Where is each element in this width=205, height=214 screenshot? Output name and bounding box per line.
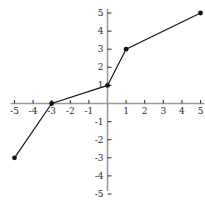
x-tick-label-5: 5 bbox=[198, 106, 204, 116]
x-tick-label-3: 3 bbox=[160, 106, 166, 116]
data-point-4 bbox=[198, 11, 203, 16]
x-tick-label-2: 2 bbox=[142, 106, 148, 116]
x-tick-label--4: -4 bbox=[29, 106, 38, 116]
y-tick-label-2: 2 bbox=[98, 62, 104, 72]
data-point-0 bbox=[12, 155, 17, 160]
y-tick-label--1: -1 bbox=[95, 117, 104, 127]
y-tick-label--3: -3 bbox=[95, 153, 104, 163]
y-tick-label--2: -2 bbox=[95, 135, 104, 145]
y-tick-label-5: 5 bbox=[98, 8, 104, 18]
y-tick-label-3: 3 bbox=[98, 44, 104, 54]
x-tick-label--5: -5 bbox=[10, 106, 19, 116]
x-tick-label--2: -2 bbox=[66, 106, 75, 116]
data-point-1 bbox=[49, 101, 54, 106]
y-tick-label--4: -4 bbox=[95, 171, 104, 181]
axes-group bbox=[11, 9, 205, 191]
data-point-3 bbox=[124, 47, 129, 52]
x-tick-label-1: 1 bbox=[123, 106, 129, 116]
cartesian-plot: -5-4-3-2-112345 54321-1-2-3-4-5 bbox=[0, 0, 205, 214]
y-tick-label-4: 4 bbox=[98, 26, 104, 36]
data-point-2 bbox=[105, 83, 110, 88]
y-tick-label--5: -5 bbox=[95, 189, 104, 199]
x-tick-label-4: 4 bbox=[179, 106, 185, 116]
x-tick-label--1: -1 bbox=[85, 106, 94, 116]
chart-figure: -5-4-3-2-112345 54321-1-2-3-4-5 bbox=[0, 0, 205, 214]
